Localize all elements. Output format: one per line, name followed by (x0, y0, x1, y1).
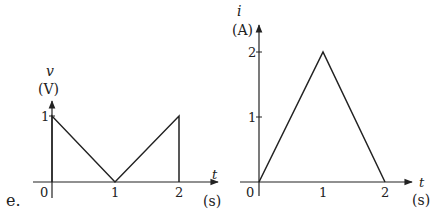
v-waveform (52, 116, 179, 182)
i-x-tick-1: 1 (319, 186, 327, 200)
i-tick-1: 1 (248, 111, 256, 125)
v-x-axis-symbol: t (212, 168, 217, 182)
v-axis-symbol: v (46, 64, 54, 78)
v-x-tick-0: 0 (40, 186, 48, 200)
i-x-axis-symbol: t (419, 176, 424, 190)
v-tick-1: 1 (41, 110, 49, 124)
v-x-axis-unit: (s) (203, 194, 221, 208)
i-waveform (259, 52, 385, 182)
i-axis-unit: (A) (232, 23, 253, 37)
i-axis-symbol: i (237, 4, 241, 18)
voltage-plot (33, 101, 218, 198)
v-x-tick-2: 2 (175, 186, 183, 200)
v-x-tick-1: 1 (111, 186, 119, 200)
current-plot (240, 25, 412, 196)
plots-canvas (0, 0, 438, 214)
problem-label: e. (6, 194, 21, 208)
i-x-tick-2: 2 (381, 186, 389, 200)
v-axis-unit: (V) (38, 82, 59, 96)
i-tick-2: 2 (248, 46, 256, 60)
i-x-tick-0: 0 (246, 186, 254, 200)
i-x-axis-unit: (s) (412, 193, 430, 207)
